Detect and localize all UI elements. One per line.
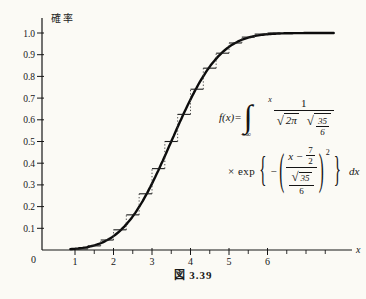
- radicand-35-over-6: 356: [314, 113, 331, 138]
- y-tick-label: 0.2: [23, 202, 35, 212]
- formula-lhs: f(x)=: [219, 111, 242, 123]
- y-tick-label: 1.0: [23, 29, 35, 39]
- frac-7-2: 72: [306, 145, 315, 167]
- y-tick-label: 0.4: [23, 159, 35, 169]
- left-paren: (: [279, 146, 284, 195]
- integral-icon: ∫ x −∞: [244, 97, 268, 137]
- dx-term: dx: [349, 165, 359, 177]
- y-axis-title: 確率: [51, 10, 75, 25]
- x-tick-label: 2: [111, 256, 116, 267]
- figure-3-39: 0.10.20.30.40.50.60.70.80.91.00123456x 確…: [0, 0, 366, 299]
- sqrt-35-over-6: √356: [307, 113, 331, 138]
- fraction-numerator: 1: [299, 97, 309, 110]
- right-brace: }: [334, 150, 341, 191]
- radical-icon: √: [291, 169, 298, 184]
- frac-35-6: 356: [316, 116, 329, 138]
- radical-icon: √: [277, 113, 284, 129]
- x-tick-label: 1: [73, 256, 78, 267]
- integral-lower-limit: −∞: [241, 130, 251, 139]
- sqrt-2pi: √2π: [277, 113, 299, 129]
- x-minus: x −: [288, 150, 303, 162]
- figure-caption: 図 3.39: [150, 266, 236, 282]
- y-tick-label: 0.5: [23, 137, 35, 147]
- den-6: 6: [320, 127, 325, 137]
- sqrt-35: √35: [289, 170, 313, 186]
- integral-sign: ∫: [244, 98, 253, 134]
- formula-annotation: f(x)= ∫ x −∞ 1 √2π √356 × exp {: [219, 97, 359, 197]
- standardized-fraction: x − 72 √356: [286, 145, 317, 197]
- y-tick-label: 0.6: [23, 115, 35, 125]
- fraction-denominator: √2π √356: [274, 110, 334, 138]
- x-tick-label: 6: [265, 256, 270, 267]
- y-tick-label: 0.3: [23, 180, 35, 190]
- radical-icon: √: [307, 113, 314, 129]
- num-7: 7: [306, 145, 315, 156]
- integral-upper-limit: x: [268, 95, 272, 104]
- x-axis-title: x: [355, 244, 361, 255]
- den-6: 6: [299, 186, 304, 196]
- formula-line-1: f(x)= ∫ x −∞ 1 √2π √356: [219, 97, 359, 138]
- minus-sign: −: [271, 165, 278, 177]
- left-brace: {: [259, 150, 266, 191]
- radicand-2pi: 2π: [284, 113, 299, 126]
- y-tick-label: 0.9: [23, 50, 35, 60]
- origin-label: 0: [31, 254, 36, 265]
- num-35: 35: [316, 116, 329, 127]
- square-exponent: 2: [326, 148, 330, 157]
- standardized-numerator: x − 72: [286, 145, 317, 168]
- formula-line-2: × exp { − ( x − 72 √356 ) 2 } dx: [228, 145, 359, 197]
- radicand-35: 35: [299, 172, 312, 183]
- normalizing-fraction: 1 √2π √356: [274, 97, 334, 138]
- y-tick-label: 0.7: [23, 94, 35, 104]
- right-paren: ): [319, 146, 324, 195]
- frac-sqrt35-6: √356: [289, 170, 313, 196]
- y-tick-label: 0.8: [23, 72, 35, 82]
- y-tick-label: 0.1: [23, 224, 35, 234]
- times-exp: × exp: [228, 165, 255, 177]
- den-2: 2: [308, 156, 313, 166]
- standardized-denominator: √356: [286, 167, 316, 196]
